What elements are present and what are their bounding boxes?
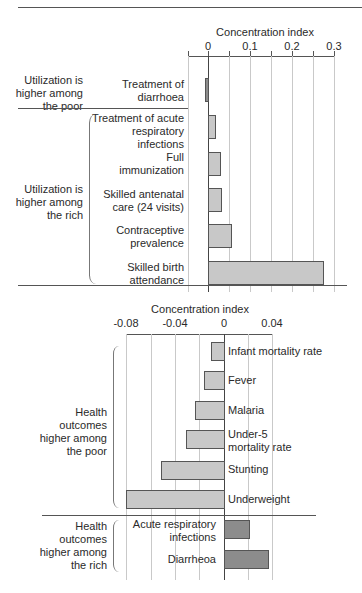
group-separator (18, 108, 188, 109)
bar-diarrheoa (224, 550, 269, 569)
label-contraceptive: Contraceptiveprevalence (116, 224, 184, 250)
bar-infant-mortality (211, 342, 225, 361)
bottom-axis-title: Concentration index (140, 303, 260, 315)
gridline (272, 334, 273, 580)
bar-treatment-ari (208, 115, 216, 139)
group-label-utilization-rich: Utilization ishigher amongthe rich (16, 183, 83, 222)
label-skilled-birth: Skilled birthattendance (127, 261, 184, 287)
bar-skilled-birth (208, 261, 324, 285)
label-diarrheoa: Diarrheoa (168, 553, 216, 566)
gridline (229, 56, 230, 292)
gridline (313, 56, 314, 292)
top-baseline (18, 285, 347, 286)
label-under5-mortality: Under-5mortality rate (228, 428, 292, 454)
bar-full-immunization (208, 152, 221, 176)
gridline (188, 56, 189, 292)
gridline (271, 56, 272, 292)
gridline (292, 56, 293, 292)
group-separator (42, 515, 316, 516)
bar-stunting (161, 461, 225, 480)
bottom-tick-2: 0 (204, 317, 244, 329)
bar-underweight (126, 490, 225, 509)
bar-malaria (195, 401, 225, 420)
group-brace (113, 346, 119, 508)
label-treatment-diarrhoea: Treatment ofdiarrhoea (122, 78, 184, 104)
label-malaria: Malaria (228, 404, 264, 417)
group-brace (89, 114, 96, 284)
group-label-outcomes-poor: Healthoutcomeshigher amongthe poor (40, 406, 107, 458)
bar-contraceptive (208, 224, 232, 248)
label-underweight: Underweight (228, 493, 290, 506)
gridline (334, 56, 335, 292)
top-rule (18, 7, 362, 8)
label-treatment-ari: Treatment of acuterespiratoryinfections (92, 112, 184, 151)
bar-acute-respiratory (224, 520, 250, 539)
group-label-outcomes-rich: Healthoutcomeshigher amongthe rich (40, 520, 107, 572)
gridline (248, 334, 249, 580)
bar-skilled-antenatal (208, 188, 222, 212)
label-infant-mortality: Infant mortality rate (228, 345, 322, 358)
bottom-tick-3: 0.04 (252, 317, 292, 329)
label-full-immunization: Fullimmunization (119, 151, 184, 177)
label-acute-respiratory: Acute respiratoryinfections (133, 518, 216, 544)
label-stunting: Stunting (228, 463, 268, 476)
label-fever: Fever (228, 374, 256, 387)
top-axis-title: Concentration index (205, 26, 325, 38)
bar-fever (204, 371, 225, 390)
gridline (126, 334, 127, 580)
label-skilled-antenatal: Skilled antenatalcare (24 visits) (103, 188, 184, 214)
bottom-tick-1: -0.04 (155, 317, 195, 329)
bar-treatment-diarrhoea (205, 78, 209, 102)
gridline (250, 56, 251, 292)
bar-under5-mortality (186, 430, 225, 449)
group-brace (113, 520, 119, 572)
bottom-tick-0: -0.08 (106, 317, 146, 329)
